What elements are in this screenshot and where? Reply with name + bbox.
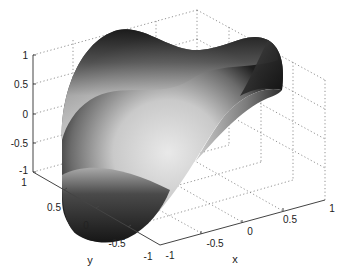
y-tick-1: 1 — [21, 177, 27, 188]
z-tick-neg0.5: -0.5 — [11, 138, 29, 149]
x-tick-labels: -1 -0.5 0 0.5 1 — [166, 203, 336, 261]
x-tick-neg0.5: -0.5 — [206, 238, 224, 249]
x-axis-label: x — [232, 253, 238, 265]
surface-plot: 1 0.5 0 -0.5 -1 1 0.5 0 -0.5 -1 -1 -0.5 … — [0, 0, 341, 276]
x-tick-1: 1 — [329, 203, 335, 214]
y-axis-label: y — [87, 254, 93, 266]
x-tick-0: 0 — [247, 226, 253, 237]
y-tick-0: 0 — [83, 220, 89, 231]
z-tick-labels: 1 0.5 0 -0.5 -1 — [11, 50, 29, 176]
y-tick-0.5: 0.5 — [47, 202, 61, 213]
z-tick-0: 0 — [22, 109, 28, 120]
z-tick-1: 1 — [22, 50, 28, 61]
y-tick-neg1: -1 — [144, 251, 153, 262]
surface — [62, 29, 283, 242]
y-tick-neg0.5: -0.5 — [108, 238, 126, 249]
x-tick-0.5: 0.5 — [283, 214, 297, 225]
z-tick-0.5: 0.5 — [14, 79, 28, 90]
x-tick-neg1: -1 — [166, 250, 175, 261]
z-tick-neg1: -1 — [19, 165, 28, 176]
